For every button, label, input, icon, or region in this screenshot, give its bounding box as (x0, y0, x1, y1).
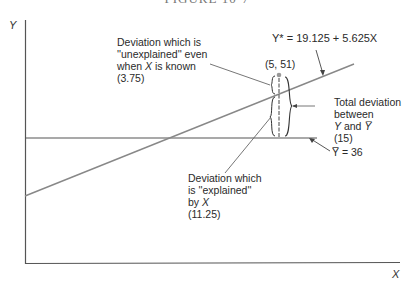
unexplained-value: (3.75) (117, 72, 207, 84)
variable-x: X (145, 60, 152, 72)
arrowhead-total (292, 104, 297, 108)
explained-label: Deviation which is ''explained'' by X (1… (188, 172, 262, 220)
explained-line1: Deviation which (188, 172, 262, 184)
explained-line3: by X (188, 196, 262, 208)
variable-x: X (202, 196, 209, 208)
total-label: Total deviation between Y and Y̅ (15) (334, 96, 401, 144)
total-line3: Y and Y̅ (334, 120, 401, 132)
unexplained-line2: ''unexplained'' even (117, 48, 207, 60)
x-axis-label: X (392, 268, 399, 280)
mean-label: Y̅ = 36 (332, 146, 363, 158)
total-line2: between (334, 108, 401, 120)
unexplained-label: Deviation which is ''unexplained'' even … (117, 36, 207, 84)
text: is known (152, 60, 196, 72)
regression-equation-label: Y* = 19.125 + 5.625X (272, 32, 377, 44)
arrowhead-regression (320, 70, 325, 76)
leader-unexplained (210, 64, 270, 85)
figure: FIGURE 10-7 Y X Y* = 19.125 + 5.625X (5, (0, 0, 414, 288)
unexplained-line3: when X is known (117, 60, 207, 72)
data-point (277, 73, 282, 78)
text: by (188, 196, 202, 208)
x-axis (25, 263, 400, 264)
variable-y-bar: Y̅ (364, 120, 371, 132)
variable-y: Y (334, 120, 341, 132)
brace-explained (270, 97, 275, 136)
explained-value: (11.25) (188, 208, 262, 220)
explained-line2: is ''explained'' (188, 184, 262, 196)
y-axis-label: Y (9, 19, 16, 31)
total-line1: Total deviation (334, 96, 401, 108)
text: when (117, 60, 145, 72)
leader-explained (225, 117, 271, 173)
total-value: (15) (334, 132, 401, 144)
brace-total (285, 77, 292, 136)
brace-unexplained (271, 76, 275, 94)
point-label: (5, 51) (265, 58, 295, 70)
leader-mean (311, 139, 330, 151)
text: and (341, 120, 364, 132)
unexplained-line1: Deviation which is (117, 36, 207, 48)
